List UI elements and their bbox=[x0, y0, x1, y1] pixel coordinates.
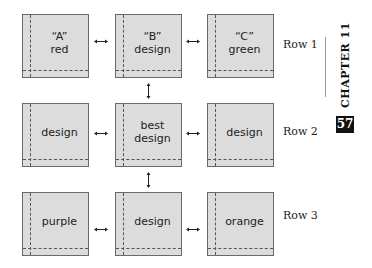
box-label: design bbox=[216, 104, 273, 160]
box-label: “A” red bbox=[31, 15, 88, 71]
chapter-text: CHAPTER 11 bbox=[339, 22, 352, 108]
box-label: orange bbox=[216, 193, 273, 249]
box-c-green: “C” green bbox=[207, 14, 274, 78]
box-b-design: “B” design bbox=[115, 14, 182, 78]
box-label: “B” design bbox=[124, 15, 181, 71]
double-arrow-vertical-icon bbox=[145, 83, 152, 99]
double-arrow-horizontal-icon bbox=[186, 130, 200, 137]
box-purple: purple bbox=[22, 192, 89, 256]
box-row2-left: design bbox=[22, 103, 89, 167]
double-arrow-horizontal-icon bbox=[186, 226, 200, 233]
box-label: purple bbox=[31, 193, 88, 249]
row-label-2: Row 2 bbox=[283, 125, 318, 138]
row-label-3: Row 3 bbox=[283, 209, 318, 222]
box-label: best design bbox=[124, 104, 181, 160]
sidebar-divider bbox=[325, 37, 326, 97]
box-label: design bbox=[31, 104, 88, 160]
box-orange: orange bbox=[207, 192, 274, 256]
row-label-1: Row 1 bbox=[283, 38, 318, 51]
double-arrow-vertical-icon bbox=[145, 172, 152, 188]
double-arrow-horizontal-icon bbox=[94, 130, 108, 137]
double-arrow-horizontal-icon bbox=[94, 226, 108, 233]
box-row3-middle: design bbox=[115, 192, 182, 256]
page-number: 57 bbox=[336, 116, 354, 133]
box-a-red: “A” red bbox=[22, 14, 89, 78]
double-arrow-horizontal-icon bbox=[94, 38, 108, 45]
box-row2-right: design bbox=[207, 103, 274, 167]
double-arrow-horizontal-icon bbox=[186, 38, 200, 45]
chapter-heading: CHAPTER 11 bbox=[337, 20, 353, 110]
box-label: “C” green bbox=[216, 15, 273, 71]
box-best-design: best design bbox=[115, 103, 182, 167]
box-label: design bbox=[124, 193, 181, 249]
